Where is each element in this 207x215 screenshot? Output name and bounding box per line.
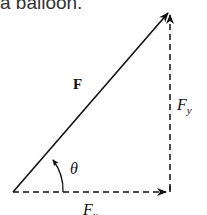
- theta-label: θ: [70, 160, 78, 178]
- force-diagram: a balloon. F Fy θ Fx: [0, 0, 207, 215]
- vector-diagram: [0, 0, 207, 215]
- force-vector-arrow: [13, 13, 168, 192]
- force-label: F: [73, 76, 82, 93]
- fy-label: Fy: [177, 96, 192, 116]
- fx-label: Fx: [83, 201, 98, 215]
- theta-angle-arc: [53, 160, 63, 192]
